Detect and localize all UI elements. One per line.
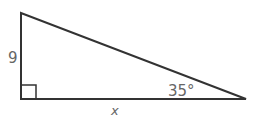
vertical-leg-label: 9 bbox=[8, 49, 18, 67]
angle-label: 35° bbox=[168, 82, 195, 100]
right-angle-marker bbox=[21, 85, 36, 99]
triangle-diagram: 9 x 35° bbox=[0, 0, 256, 119]
triangle-shape bbox=[21, 13, 246, 99]
horizontal-leg-label: x bbox=[110, 103, 119, 118]
